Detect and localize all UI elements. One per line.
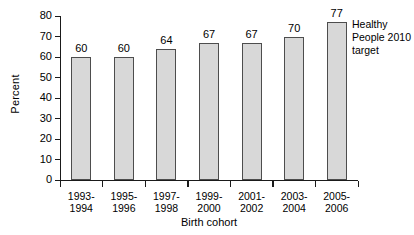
x-axis-line [60, 180, 358, 181]
x-axis-tick-mark [187, 181, 188, 187]
x-axis-category-label-line: 1993- [58, 190, 104, 202]
bar-value-label: 60 [104, 43, 144, 54]
y-axis-tick-label: 80 [28, 10, 52, 21]
y-axis-tick-label-wrap: 10 [26, 154, 52, 165]
y-axis-tick-label-wrap: 30 [26, 113, 52, 124]
annotation-line: Healthy [352, 18, 414, 31]
healthy-people-2010-target-annotation: HealthyPeople 2010target [352, 18, 414, 57]
bar-value-label: 60 [61, 43, 101, 54]
y-axis-tick-label-wrap: 60 [26, 51, 52, 62]
bar-value-label: 67 [189, 29, 229, 40]
x-axis-category-label-line: 1998 [143, 202, 189, 214]
y-axis-tick-label-wrap: 20 [26, 133, 52, 144]
y-axis-tick-label: 70 [28, 31, 52, 42]
x-axis-category-label-line: 1994 [58, 202, 104, 214]
y-axis-tick-label-wrap: 80 [26, 10, 52, 21]
y-axis-title: Percent [9, 49, 23, 139]
bar [114, 57, 134, 180]
x-axis-category-label-line: 2004 [271, 202, 317, 214]
annotation-line: People 2010 [352, 31, 414, 44]
x-axis-category-label-line: 1995- [101, 190, 147, 202]
y-axis-tick-label: 50 [28, 72, 52, 83]
x-axis-tick-mark [145, 181, 146, 187]
x-axis-category-label: 1995-1996 [101, 190, 147, 214]
bar [284, 37, 304, 181]
bar [199, 43, 219, 180]
x-axis-tick-mark [272, 181, 273, 187]
bar [156, 49, 176, 180]
bar [327, 22, 347, 180]
bar-value-label: 77 [317, 8, 357, 19]
x-axis-category-label: 2001-2002 [229, 190, 275, 214]
y-axis-tick-label: 0 [28, 174, 52, 185]
x-axis-category-label: 2005-2006 [314, 190, 360, 214]
x-axis-category-label: 2003-2004 [271, 190, 317, 214]
y-axis-tick-label: 20 [28, 133, 52, 144]
x-axis-category-label-line: 2005- [314, 190, 360, 202]
x-axis-tick-mark [60, 181, 61, 187]
x-axis-category-label-line: 1996 [101, 202, 147, 214]
x-axis-category-label-line: 2003- [271, 190, 317, 202]
x-axis-tick-mark [358, 181, 359, 187]
x-axis-category-label-line: 2000 [186, 202, 232, 214]
bar-value-label: 70 [274, 23, 314, 34]
x-axis-category-label-line: 1997- [143, 190, 189, 202]
y-axis-tick-label: 10 [28, 154, 52, 165]
y-axis-tick-label: 40 [28, 92, 52, 103]
x-axis-title: Birth cohort [60, 216, 358, 228]
bar [71, 57, 91, 180]
x-axis-category-label: 1999-2000 [186, 190, 232, 214]
bar-chart-figure: Percent 80706050403020100 60606467677077… [0, 0, 414, 235]
x-axis-category-label: 1997-1998 [143, 190, 189, 214]
y-axis-tick-label-wrap: 50 [26, 72, 52, 83]
y-axis-tick-label: 30 [28, 113, 52, 124]
y-axis-tick-label: 60 [28, 51, 52, 62]
x-axis-tick-mark [230, 181, 231, 187]
bar [242, 43, 262, 180]
bar-value-label: 67 [232, 29, 272, 40]
y-axis-tick-label-wrap: 70 [26, 31, 52, 42]
x-axis-category-label-line: 2002 [229, 202, 275, 214]
plot-area [60, 16, 358, 180]
x-axis-category-label: 1993-1994 [58, 190, 104, 214]
y-axis-tick-label-wrap: 40 [26, 92, 52, 103]
x-axis-tick-mark [315, 181, 316, 187]
x-axis-category-label-line: 2001- [229, 190, 275, 202]
x-axis-tick-mark [102, 181, 103, 187]
x-axis-category-label-line: 2006 [314, 202, 360, 214]
annotation-line: target [352, 44, 414, 57]
y-axis-tick-label-wrap: 0 [26, 174, 52, 185]
x-axis-category-label-line: 1999- [186, 190, 232, 202]
bar-value-label: 64 [146, 35, 186, 46]
